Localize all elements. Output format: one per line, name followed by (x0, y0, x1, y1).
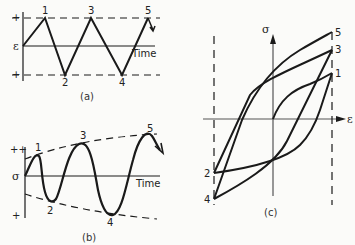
panel-c-point-3: 3 (335, 44, 341, 55)
panel-c-sigma-arrow-icon (270, 34, 276, 44)
panel-c-sigma-symbol: σ (262, 23, 270, 36)
panel-a-time-label: Time (131, 48, 156, 59)
panel-a-symbol: ε (13, 40, 19, 53)
panel-a: + + ε Time 1 2 3 4 5 (a) (12, 5, 160, 102)
panel-b-point-2: 2 (47, 205, 53, 216)
panel-b-plus: ++ (10, 144, 27, 155)
panel-c-point-2: 2 (204, 168, 210, 179)
panel-a-point-3: 3 (88, 5, 94, 16)
panel-a-arrow-icon (148, 18, 155, 31)
panel-a-point-1: 1 (42, 5, 48, 16)
panel-a-point-2: 2 (62, 77, 68, 88)
panel-b: ++ + σ Time 1 2 3 4 5 (b) (10, 123, 163, 243)
panel-c-caption: (c) (264, 207, 277, 218)
panel-b-point-3: 3 (80, 130, 86, 141)
panel-c-epsilon-symbol: ε (347, 113, 353, 126)
panel-a-point-4: 4 (119, 77, 125, 88)
panel-b-minus: + (12, 210, 20, 221)
panel-a-point-5: 5 (145, 5, 151, 16)
panel-b-lower-envelope (25, 194, 157, 219)
panel-c: σ ε 5 3 1 2 4 (c) (203, 23, 353, 218)
panel-b-point-1: 1 (35, 142, 41, 153)
panel-a-plus: + (12, 12, 20, 23)
panel-b-caption: (b) (82, 232, 96, 243)
panel-b-time-label: Time (135, 178, 160, 189)
panel-c-point-4: 4 (204, 194, 210, 205)
panel-a-minus: + (12, 69, 20, 80)
panel-b-point-4: 4 (107, 217, 113, 228)
panel-c-point-5: 5 (335, 27, 341, 38)
panel-c-point-1: 1 (335, 68, 341, 79)
panel-a-caption: (a) (80, 91, 94, 102)
panel-b-point-5: 5 (147, 123, 153, 134)
panel-b-stress-waveform (25, 133, 160, 215)
figure: + + ε Time 1 2 3 4 5 (a) ++ + σ Time 1 2… (0, 0, 355, 245)
panel-c-epsilon-arrow-icon (336, 116, 346, 122)
panel-b-symbol: σ (12, 170, 20, 183)
